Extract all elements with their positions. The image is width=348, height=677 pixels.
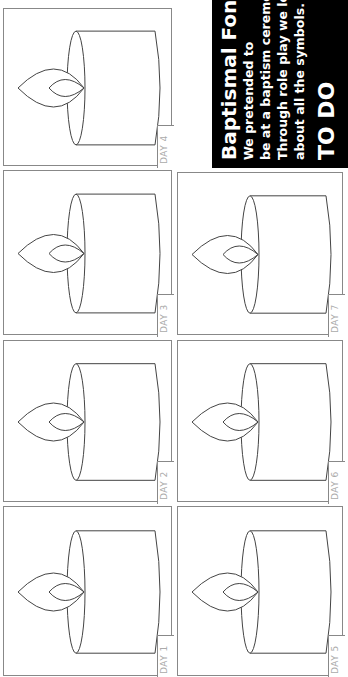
- day-label: DAY 2: [159, 471, 169, 500]
- day-panel: DAY 4: [3, 8, 172, 166]
- worksheet-title: Baptismal Font: [218, 0, 240, 160]
- candle-icon: [178, 341, 344, 503]
- day-panel: DAY 5: [177, 506, 343, 676]
- day-label: DAY 3: [159, 304, 169, 333]
- day-label: DAY 7: [330, 304, 340, 333]
- day-panel: DAY 7: [177, 172, 343, 335]
- day-panel: DAY 6: [177, 340, 343, 502]
- candle-icon: [178, 507, 344, 677]
- day-label: DAY 1: [159, 645, 169, 674]
- day-panel: DAY 1: [3, 506, 172, 676]
- candle-icon: [178, 173, 344, 336]
- desc-line-2: be at a baptism ceremony.: [257, 0, 274, 160]
- desc-line-4: about all the symbols.: [291, 0, 308, 160]
- day-label: DAY 4: [159, 135, 169, 164]
- candle-icon: [4, 9, 173, 167]
- description-box: Baptismal Font We pretended to be at a b…: [212, 0, 348, 168]
- day-label: DAY 5: [330, 645, 340, 674]
- candle-icon: [4, 341, 173, 503]
- day-panel: DAY 3: [3, 170, 172, 335]
- todo-heading: TO DO: [314, 0, 339, 160]
- day-label: DAY 6: [330, 471, 340, 500]
- desc-line-1: We pretended to: [240, 0, 257, 160]
- day-panel: DAY 2: [3, 340, 172, 502]
- desc-line-3: Through role play we learned: [274, 0, 291, 160]
- candle-icon: [4, 171, 173, 336]
- candle-icon: [4, 507, 173, 677]
